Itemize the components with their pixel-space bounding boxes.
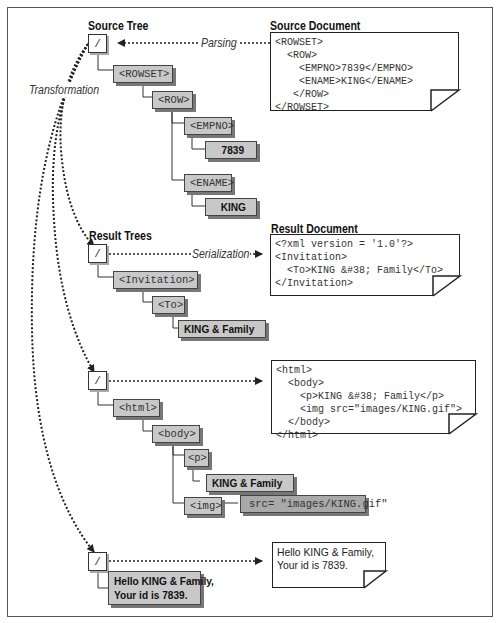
result-document-1: <?xml version = '1.0'?> <Invitation> <To… xyxy=(270,234,460,296)
tree-node-empno: <EMPNO> xyxy=(184,117,232,135)
tree-node-to-value: KING & Family xyxy=(178,320,266,338)
source-tree-root-node: / xyxy=(88,34,107,53)
tree-node-img-src-attribute: src= "images/KING.gif" xyxy=(240,495,366,513)
tree-node-text-output: Hello KING & Family, Your id is 7839. xyxy=(108,571,201,605)
source-tree-heading: Source Tree xyxy=(88,19,148,33)
tree-node-to: <To> xyxy=(152,296,185,314)
tree-node-body: <body> xyxy=(152,425,200,443)
tree-node-p: <p> xyxy=(184,449,209,467)
tree-node-empno-value: 7839 xyxy=(205,141,257,159)
tree-node-img: <img> xyxy=(184,497,222,515)
tree-node-row: <ROW> xyxy=(152,91,193,109)
transformation-label: Transformation xyxy=(28,83,100,97)
result-tree-1-root-node: / xyxy=(88,244,107,263)
result-document-2: <html> <body> <p>KING &#38; Family</p> <… xyxy=(271,360,476,434)
serialization-label: Serialization xyxy=(191,247,250,261)
result-document-3: Hello KING & Family,Your id is 7839. xyxy=(272,542,386,588)
tree-node-ename-value: KING xyxy=(205,198,257,216)
source-document: <ROWSET> <ROW> <EMPNO>7839</EMPNO> <ENAM… xyxy=(270,32,459,111)
tree-node-invitation: <Invitation> xyxy=(113,271,198,289)
tree-node-ename: <ENAME> xyxy=(184,174,232,192)
parsing-label: Parsing xyxy=(200,36,238,50)
result-tree-2-root-node: / xyxy=(88,371,107,390)
tree-node-p-value: KING & Family xyxy=(206,474,294,492)
result-tree-3-root-node: / xyxy=(88,552,107,571)
source-document-heading: Source Document xyxy=(270,19,360,33)
tree-node-rowset: <ROWSET> xyxy=(113,65,173,83)
tree-node-html: <html> xyxy=(113,399,160,417)
result-trees-heading: Result Trees xyxy=(89,229,152,243)
